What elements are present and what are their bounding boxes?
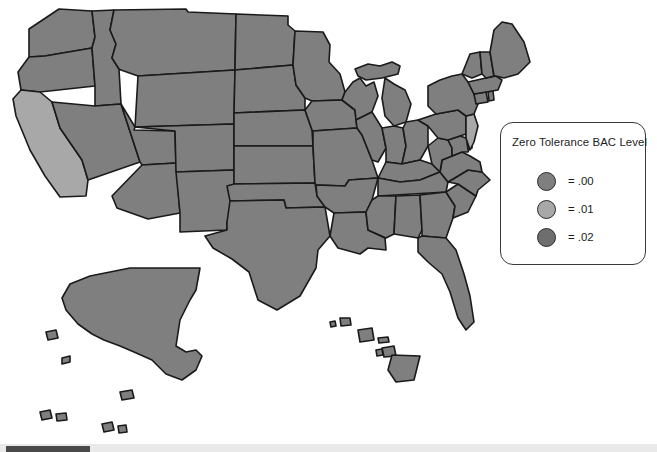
state-vermont[interactable] [462,52,482,78]
state-michigan-upper[interactable] [355,62,400,80]
state-indiana[interactable] [382,126,406,164]
caption-tag [6,446,90,452]
legend-swatch-00-icon [537,172,556,191]
state-massachusetts[interactable] [468,76,502,94]
legend-item-00[interactable]: = .00 [537,167,594,195]
state-hawaii-molokai[interactable] [378,337,389,343]
state-montana[interactable] [110,9,236,76]
legend-items: = .00 = .01 = .02 [537,167,594,251]
state-arizona[interactable] [112,163,180,219]
state-ohio[interactable] [402,120,428,164]
state-nebraska[interactable] [234,110,313,146]
state-hawaii-kauai[interactable] [340,318,351,326]
legend-label-00: = .00 [568,175,594,187]
caption-bar [0,444,657,452]
state-michigan-lower[interactable] [382,78,411,126]
legend: Zero Tolerance BAC Level = .00 = .01 = .… [500,122,646,265]
state-florida[interactable] [418,236,474,330]
state-alaska-island-1[interactable] [46,330,58,340]
legend-label-02: = .02 [568,231,594,243]
legend-swatch-01-icon [537,200,556,219]
state-alaska-island-3[interactable] [120,390,134,400]
state-alaska-island-4[interactable] [40,410,52,420]
state-wyoming[interactable] [135,70,235,127]
legend-swatch-02-icon [537,228,556,247]
state-alaska-island-5[interactable] [56,413,67,421]
state-alaska-island-2[interactable] [62,356,70,364]
state-hawaii-niihau[interactable] [330,321,336,327]
state-hawaii-kahoolawe[interactable] [376,349,383,356]
map-figure: Zero Tolerance BAC Level = .00 = .01 = .… [0,0,657,452]
state-alaska-island-6[interactable] [102,422,114,432]
state-newyork[interactable] [428,74,478,116]
legend-item-01[interactable]: = .01 [537,195,594,223]
state-hawaii-bigisland[interactable] [388,355,420,382]
legend-label-01: = .01 [568,203,594,215]
state-hawaii-oahu[interactable] [358,328,374,342]
state-newmexico[interactable] [176,170,235,232]
state-rhodeisland[interactable] [488,91,494,101]
state-northdakota[interactable] [235,14,295,70]
state-mississippi[interactable] [366,196,396,238]
state-newjersey[interactable] [466,114,478,150]
state-alabama[interactable] [394,195,422,238]
state-minnesota[interactable] [293,31,345,101]
state-alaska[interactable] [62,268,202,380]
state-maine[interactable] [490,22,530,78]
legend-title: Zero Tolerance BAC Level [512,136,647,148]
state-kansas[interactable] [234,146,315,184]
state-alaska-island-7[interactable] [118,425,127,433]
legend-item-02[interactable]: = .02 [537,223,594,251]
